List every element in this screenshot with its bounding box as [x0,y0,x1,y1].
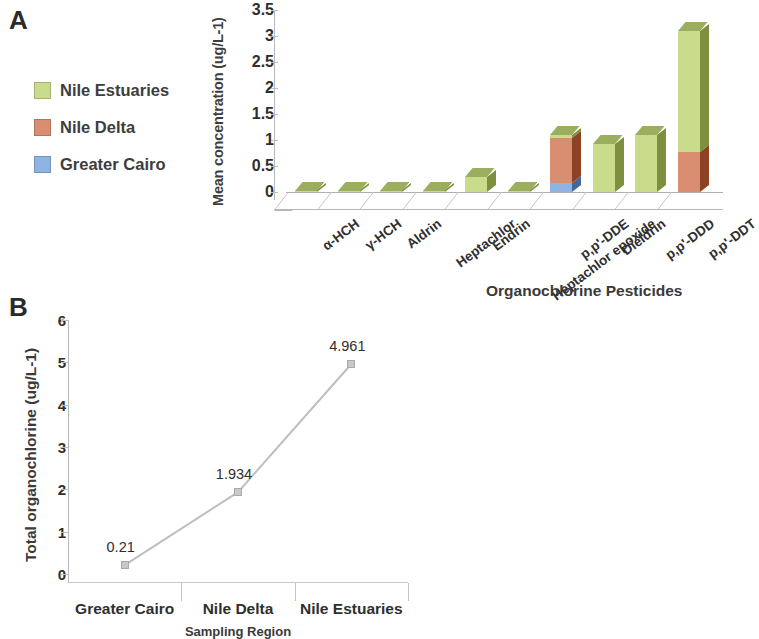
panel-b-data-label: 1.934 [216,466,252,482]
panel-a-axis-tick [271,192,278,193]
panel-b-data-label: 0.21 [107,539,135,555]
panel-a-y-tick: 2 [228,80,274,96]
panel-a-bar-stack [678,31,700,192]
panel-a-bar-top-face [508,182,538,191]
panel-b-axis-tick [61,447,68,448]
panel-a-bar-stack [295,190,317,192]
panel-a-bar-segment-nile-delta [550,138,572,183]
panel-a-y-tick: 2.5 [228,54,274,70]
legend-label-nile-delta: Nile Delta [60,119,135,136]
panel-a-x-axis-title: Organochlorine Pesticides [486,282,682,300]
panel-a-bar-stack [338,190,360,192]
panel-b-axis-tick [61,320,68,321]
panel-a-y-tick: 1 [228,132,274,148]
panel-a-bar-segment-nile-estuaries [635,135,657,192]
panel-b-plot-area: 0.211.9344.961 [68,320,408,592]
panel-a-y-tick: 3 [228,28,274,44]
panel-a-bar-top-face [423,182,453,191]
panel-a-axis-tick [271,88,278,89]
panel-b-data-label: 4.961 [329,338,365,354]
panel-b-y-axis-ticks: 0123456 [34,312,66,592]
panel-a-y-axis-line [274,10,275,200]
floor-front-edge [274,209,723,210]
panel-a-axis-tick [271,62,278,63]
panel-a-category-separator [317,192,331,209]
panel-a-bar-segment-nile-estuaries [550,135,572,138]
panel-a-category-separator [445,192,459,209]
panel-b-axis-tick [61,405,68,406]
legend-swatch-blue [34,156,51,173]
panel-a-category-separator [615,192,629,209]
panel-b-x-tick-label: Nile Estuaries [300,600,403,618]
floor-back-edge [286,192,723,193]
panel-a-bar-segment-side [700,145,709,192]
legend-label-nile-estuaries: Nile Estuaries [60,82,169,99]
panel-a-category-separator [402,192,416,209]
legend-swatch-red [34,119,51,136]
legend-item-nile-delta: Nile Delta [34,119,169,136]
panel-a-y-tick: 1.5 [228,106,274,122]
panel-a-x-tick-label: Aldrin [404,216,444,251]
panel-a-bar-top-face [295,182,325,191]
panel-b-x-tick-label: Greater Cairo [75,600,174,618]
panel-a-bar-segment-nile-estuaries [465,177,487,192]
legend: Nile Estuaries Nile Delta Greater Cairo [34,82,169,173]
panel-a-bar-top-face [380,182,410,191]
panel-b-x-axis-labels: Greater CairoNile DeltaNile Estuaries [68,600,408,620]
panel-b-x-axis-tick [181,583,182,601]
legend-label-greater-cairo: Greater Cairo [60,156,165,173]
panel-a-bar-stack [593,144,615,192]
panel-a-floor [274,192,723,218]
panel-a-bar-stack [380,190,402,192]
panel-a-bar-segment-side [615,137,624,192]
panel-a-y-tick: 3.5 [228,2,274,18]
panel-a-plot-area [274,10,723,206]
panel-a-bar-segment-nile-estuaries [678,31,700,152]
panel-a-bar-segment-nile-delta [678,152,700,192]
panel-a-bar-stack [635,135,657,192]
panel-b-data-point[interactable] [234,488,242,496]
panel-a-bar-segment-side [572,131,581,183]
panel-a-category-separator [360,192,374,209]
panel-b-data-point[interactable] [121,561,129,569]
panel-a-y-tick: 0.5 [228,158,274,174]
panel-a-axis-tick [271,10,278,11]
panel-a-axis-tick [271,140,278,141]
panel-a-axis-tick [271,166,278,167]
panel-a-category-separator [657,192,671,209]
legend-item-greater-cairo: Greater Cairo [34,156,169,173]
panel-b-line-chart: Total organochlorine (ug/L-1) 0123456 0.… [8,312,428,638]
panel-a-category-separator [487,192,501,209]
panel-b-x-axis-title: Sampling Region [185,624,291,639]
panel-b-axis-tick [61,489,68,490]
panel-a-bar-segment-greater-cairo [550,183,572,192]
panel-a-bar-segment-side [657,128,666,192]
panel-b-axis-tick [61,362,68,363]
panel-b-axis-tick [61,574,68,575]
panel-b-axis-tick [61,532,68,533]
panel-b-x-axis-tick [295,583,296,601]
panel-b-data-point[interactable] [347,360,355,368]
panel-a-label: A [9,5,28,36]
legend-swatch-green [34,82,51,99]
panel-a-y-axis-ticks: 00.511.522.533.5 [212,4,274,214]
panel-a-bar-chart: Mean concentration (ug/L-1) 00.511.522.5… [196,4,727,300]
panel-b-x-tick-label: Nile Delta [203,600,274,618]
panel-a-x-tick-label: γ-HCH [362,216,404,253]
legend-item-nile-estuaries: Nile Estuaries [34,82,169,99]
panel-a-bar-stack [465,177,487,192]
panel-a-axis-tick [271,114,278,115]
panel-a-x-tick-label: α-HCH [320,216,363,253]
panel-a-bar-stack [508,190,530,192]
panel-a-bar-segment-side [700,24,709,152]
panel-a-bar-stack [423,190,445,192]
panel-a-y-tick: 0 [228,184,274,200]
panel-b-x-axis-tick [408,583,409,601]
panel-a-bar-top-face [338,182,368,191]
panel-a-bar-segment-nile-estuaries [593,144,615,192]
panel-a-category-separator [572,192,586,209]
panel-a-axis-tick [271,36,278,37]
panel-a-bar-stack [550,135,572,192]
panel-a-category-separator [530,192,544,209]
